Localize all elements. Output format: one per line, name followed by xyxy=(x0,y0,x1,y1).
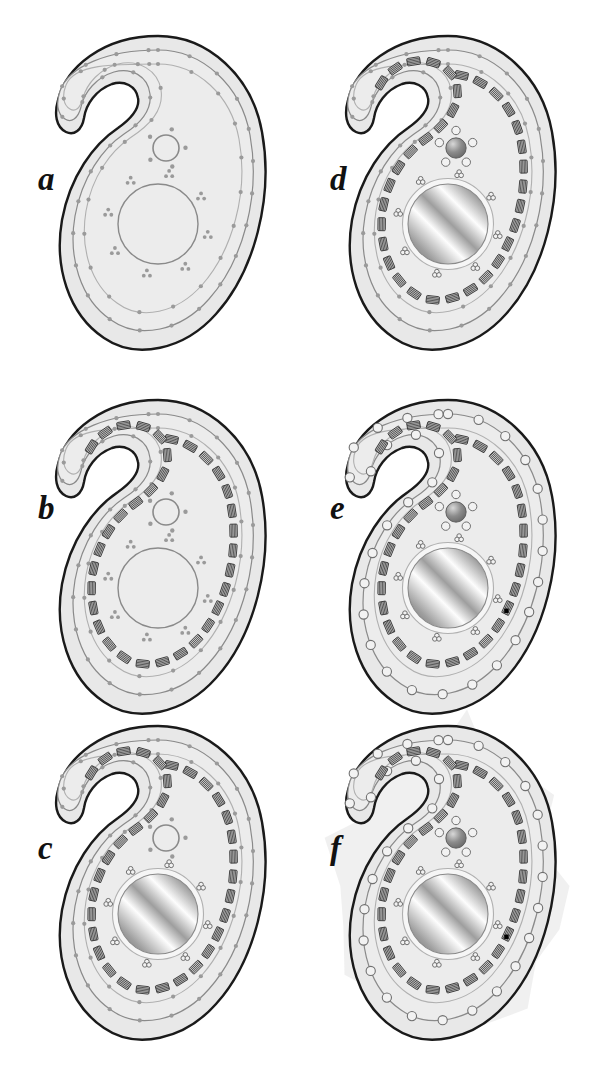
peripheral-vesicle xyxy=(382,993,391,1002)
cortical-granule xyxy=(239,190,243,194)
cortical-granule xyxy=(350,115,354,119)
cortical-granule xyxy=(76,889,80,893)
cortical-granule xyxy=(197,307,201,311)
cortical-granule xyxy=(397,294,401,298)
striated-band-segment xyxy=(378,582,386,595)
cortical-granule xyxy=(534,223,538,227)
peripheral-vesicle xyxy=(438,1016,447,1025)
cortical-granule xyxy=(197,997,201,1001)
cortical-granule xyxy=(71,231,75,235)
cortical-granule xyxy=(218,946,222,950)
cortical-granule xyxy=(156,738,160,742)
peripheral-vesicle xyxy=(404,498,413,507)
cortical-granule xyxy=(188,418,192,422)
cortical-granule xyxy=(100,166,104,170)
peripheral-vesicle xyxy=(373,423,382,432)
cortical-granule xyxy=(244,223,248,227)
striated-band-segment xyxy=(407,421,421,430)
organelle-satellite xyxy=(442,848,450,856)
cortical-granule xyxy=(215,71,219,75)
cortical-granule xyxy=(421,70,425,74)
cortical-granule xyxy=(82,232,86,236)
panel-d xyxy=(330,28,570,358)
cortical-granule xyxy=(108,833,112,837)
striated-band-segment xyxy=(88,582,96,595)
organelle-satellite xyxy=(468,502,476,510)
cortical-granule xyxy=(133,487,137,491)
cortical-granule xyxy=(169,1013,173,1017)
peripheral-vesicle xyxy=(411,756,420,765)
cortical-granule xyxy=(239,519,243,523)
cortical-granule xyxy=(199,648,203,652)
striated-band-segment xyxy=(453,84,461,98)
cortical-granule xyxy=(459,323,463,327)
peripheral-vesicle xyxy=(403,739,412,748)
cortical-granule xyxy=(371,94,375,98)
cortical-granule xyxy=(100,765,104,769)
cortical-granule xyxy=(369,69,373,73)
cortical-granule xyxy=(234,254,238,258)
cortical-granule xyxy=(89,533,93,537)
peripheral-vesicle xyxy=(366,640,375,649)
striated-band-segment xyxy=(117,747,131,756)
organelle-satellite xyxy=(148,825,152,829)
organelle-satellite xyxy=(452,816,460,824)
cortical-granule xyxy=(100,439,104,443)
peripheral-vesicle xyxy=(360,905,369,914)
cortical-granule xyxy=(148,785,152,789)
panel-b xyxy=(40,392,280,722)
cortical-granule xyxy=(232,224,236,228)
cortical-granule xyxy=(146,48,150,52)
striated-band-segment xyxy=(229,544,238,558)
cortical-granule xyxy=(403,63,407,67)
cortical-granule xyxy=(131,760,135,764)
cortical-granule xyxy=(404,52,408,56)
peripheral-vesicle xyxy=(521,455,530,464)
cortical-granule xyxy=(80,100,84,104)
striated-band-segment xyxy=(519,180,528,194)
cortical-granule xyxy=(251,159,255,163)
peripheral-vesicle xyxy=(511,962,520,971)
cortical-granule xyxy=(540,191,544,195)
nucleoplasm xyxy=(118,874,198,954)
band-marker xyxy=(504,609,508,613)
cortical-granule xyxy=(379,266,383,270)
cortical-granule xyxy=(107,658,111,662)
cortical-granule xyxy=(84,63,88,67)
peripheral-vesicle xyxy=(345,473,354,482)
cortical-granule xyxy=(427,310,431,314)
cortical-granule xyxy=(189,434,193,438)
cortical-granule xyxy=(169,323,173,327)
cortical-granule xyxy=(79,69,83,73)
striated-band-segment xyxy=(136,985,150,994)
cortical-granule xyxy=(103,68,107,72)
peripheral-vesicle xyxy=(383,521,392,530)
organelle-satellite xyxy=(462,158,470,166)
panel-label-b: b xyxy=(38,492,55,525)
cortical-granule xyxy=(71,921,75,925)
peripheral-vesicle xyxy=(533,810,542,819)
cortical-granule xyxy=(250,555,254,559)
cortical-granule xyxy=(235,787,239,791)
peripheral-vesicle xyxy=(360,579,369,588)
peripheral-vesicle xyxy=(428,478,437,487)
cortical-granule xyxy=(171,668,175,672)
peripheral-vesicle xyxy=(404,824,413,833)
peripheral-vesicle xyxy=(349,443,358,452)
cortical-granule xyxy=(428,328,432,332)
panel-label-e: e xyxy=(330,492,345,525)
cortical-granule xyxy=(171,304,175,308)
peripheral-vesicle xyxy=(511,636,520,645)
cortical-granule xyxy=(372,232,376,236)
cortical-granule xyxy=(81,94,85,98)
cortical-granule xyxy=(82,596,86,600)
organelle-satellite xyxy=(170,164,174,168)
cortical-granule xyxy=(216,781,220,785)
cortical-granule xyxy=(60,479,64,483)
panel-c xyxy=(40,718,280,1048)
peripheral-vesicle xyxy=(359,610,368,619)
peripheral-vesicle xyxy=(538,515,547,524)
striated-band-segment xyxy=(407,747,421,756)
striated-band-segment xyxy=(230,524,238,537)
cortical-granule xyxy=(84,427,88,431)
